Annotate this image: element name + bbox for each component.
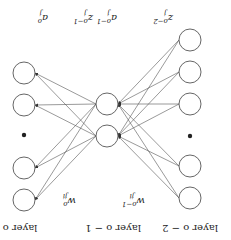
node — [179, 93, 201, 115]
node — [179, 61, 201, 83]
label-z-o-minus-1: zo−1j — [73, 9, 94, 25]
layer-o-nodes — [13, 62, 35, 211]
layer-label-o-minus-1: layer o − 1 — [85, 223, 141, 234]
label-z-o-minus-2: zo−2j — [153, 9, 174, 25]
node — [179, 155, 201, 177]
layer-o-minus-1-nodes — [96, 93, 118, 147]
ellipsis-dot — [22, 133, 26, 137]
node — [96, 125, 118, 147]
svg-text:zo−2j: zo−2j — [153, 9, 174, 25]
weight-label-o-minus-1: wo−1ji — [122, 192, 145, 208]
layer-label-o: layer o — [3, 223, 38, 234]
edges-o-minus-1-to-o — [35, 73, 96, 200]
weight-label-o: woji — [63, 192, 76, 208]
label-a-o: aoj — [38, 9, 48, 25]
node — [179, 29, 201, 51]
node — [179, 187, 201, 209]
neural-network-diagram: layer o − 2 layer o − 1 layer o wo−1ji w… — [0, 0, 231, 240]
node — [13, 62, 35, 84]
svg-text:zo−1j: zo−1j — [73, 9, 94, 25]
svg-text:woji: woji — [63, 192, 76, 208]
node — [96, 93, 118, 115]
layer-o-minus-2-nodes — [179, 29, 201, 209]
svg-text:ao−1j: ao−1j — [96, 9, 117, 25]
label-a-o-minus-1: ao−1j — [96, 9, 117, 25]
node — [13, 189, 35, 211]
node — [13, 94, 35, 116]
node — [13, 157, 35, 179]
ellipsis-dot — [188, 134, 192, 138]
layer-label-o-minus-2: layer o − 2 — [162, 223, 218, 234]
svg-text:wo−1ji: wo−1ji — [122, 192, 145, 208]
svg-text:aoj: aoj — [38, 9, 48, 25]
edges-o-minus-2-to-o-minus-1 — [118, 40, 179, 198]
